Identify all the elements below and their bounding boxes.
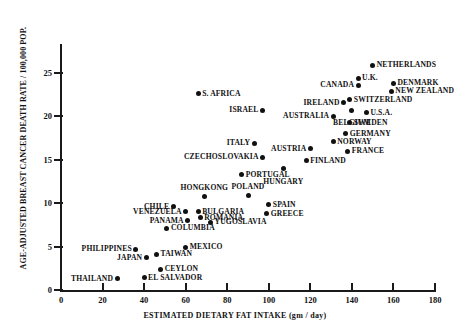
x-axis-line — [60, 290, 436, 292]
data-point-label: GREECE — [271, 210, 304, 218]
x-tick-label: 100 — [254, 295, 284, 305]
x-tick-label: 180 — [420, 295, 450, 305]
data-point-label: NETHERLANDS — [377, 61, 436, 69]
data-point-label: AUSTRALIA — [283, 112, 329, 120]
x-axis-title: ESTIMATED DIETARY FAT INTAKE (gm / day) — [0, 311, 470, 320]
data-point-label: CZECHOSLOVAKIA — [184, 153, 259, 161]
data-point-label: NORWAY — [337, 138, 372, 146]
data-point-label: THAILAND — [71, 275, 113, 283]
data-point — [356, 76, 361, 81]
data-point-label: SWITZERLAND — [354, 96, 413, 104]
data-point — [370, 63, 375, 68]
data-point-label: SWEDEN — [354, 119, 388, 127]
data-point-label: FINLAND — [310, 157, 346, 165]
data-point-label: YUGOSLAVIA — [215, 218, 267, 226]
data-point — [331, 114, 336, 119]
y-tick-label: 5 — [36, 242, 52, 252]
y-tick-label: 15 — [36, 155, 52, 165]
data-point-label: CANADA — [320, 81, 354, 89]
data-point-label: U.K. — [362, 74, 378, 82]
data-point-label: ISRAEL — [229, 106, 258, 114]
data-point-label: PORTUGAL — [246, 171, 290, 179]
data-point-label: JAPAN — [117, 254, 142, 262]
data-point — [142, 275, 147, 280]
data-point — [260, 108, 265, 113]
data-point-label: HONGKONG — [181, 184, 229, 192]
data-point-label: FRANCE — [352, 147, 385, 155]
x-tick-label: 0 — [46, 295, 76, 305]
data-point — [115, 276, 120, 281]
data-point-label: AUSTRIA — [271, 145, 306, 153]
data-point — [158, 267, 163, 272]
data-point — [356, 83, 361, 88]
data-point — [331, 139, 336, 144]
y-axis-title: AGE-ADJUSTED BREAST CANCER DEATH RATE / … — [19, 40, 28, 270]
y-tick-label: 0 — [36, 285, 52, 295]
x-tick-label: 80 — [212, 295, 242, 305]
x-tick-label: 120 — [295, 295, 325, 305]
data-point-label: TAIWAN — [161, 250, 193, 258]
data-point — [391, 81, 396, 86]
data-point — [308, 146, 313, 151]
data-point-label: COLUMBIA — [171, 224, 215, 232]
data-point-label: MEXICO — [190, 243, 223, 251]
data-point-label: ITALY — [227, 139, 251, 147]
data-point-label: U.S.A. — [370, 109, 392, 117]
x-tick-label: 20 — [88, 295, 118, 305]
x-tick-label: 60 — [171, 295, 201, 305]
data-point — [304, 158, 309, 163]
data-point-label: POLAND — [232, 183, 265, 191]
data-point-label: HUNGARY — [263, 178, 303, 186]
data-point — [389, 89, 394, 94]
data-point — [345, 149, 350, 154]
x-tick-label: 140 — [337, 295, 367, 305]
y-tick-label: 20 — [36, 111, 52, 121]
data-point-label: IRELAND — [303, 99, 339, 107]
data-point — [154, 252, 159, 257]
y-tick-label: 10 — [36, 198, 52, 208]
y-tick-label: 25 — [36, 68, 52, 78]
x-tick-label: 160 — [378, 295, 408, 305]
data-point — [246, 193, 251, 198]
data-point-label: EL SALVADOR — [148, 274, 202, 282]
x-tick-label: 40 — [129, 295, 159, 305]
data-point — [260, 155, 265, 160]
scatter-chart: 0510152025 020406080100120140160180 AGE-… — [0, 0, 470, 330]
data-point — [252, 141, 257, 146]
data-point — [202, 194, 207, 199]
data-point-label: S. AFRICA — [202, 90, 240, 98]
